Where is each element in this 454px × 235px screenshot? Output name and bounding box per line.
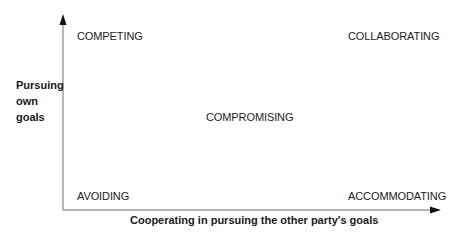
x-axis-arrowhead-icon <box>430 207 441 214</box>
quadrant-label-accommodating: ACCOMMODATING <box>348 190 446 202</box>
quadrant-label-collaborating: COLLABORATING <box>348 30 439 42</box>
y-axis-label: Pursuing own goals <box>16 77 64 125</box>
y-axis-label-line-3: goals <box>16 109 64 125</box>
y-axis-label-line-2: own <box>16 93 64 109</box>
conflict-modes-diagram: Pursuing own goals COMPETING COLLABORATI… <box>0 0 454 235</box>
y-axis-label-line-1: Pursuing <box>16 77 64 93</box>
y-axis-arrowhead-icon <box>60 14 67 25</box>
x-axis-label: Cooperating in pursuing the other party'… <box>130 214 378 227</box>
quadrant-label-compromising: COMPROMISING <box>206 111 293 123</box>
quadrant-label-competing: COMPETING <box>77 30 143 42</box>
quadrant-label-avoiding: AVOIDING <box>77 190 129 202</box>
